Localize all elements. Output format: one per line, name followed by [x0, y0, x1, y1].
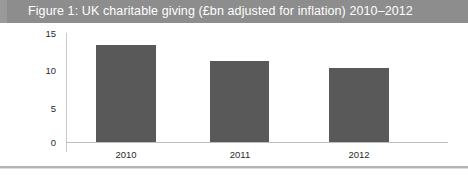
x-tick-label-2010: 2010 [86, 149, 166, 160]
chart-plot-area: 15 10 5 0 2010 2011 2012 [0, 23, 468, 175]
x-tick-label-2012: 2012 [319, 149, 399, 160]
x-axis-line [66, 142, 448, 143]
x-tick-label-2011: 2011 [200, 149, 280, 160]
figure-title: Figure 1: UK charitable giving (£bn adju… [28, 3, 413, 20]
bar-2011[interactable] [210, 61, 269, 142]
figure-container: Figure 1: UK charitable giving (£bn adju… [0, 0, 468, 175]
bars-layer [0, 23, 468, 142]
bar-2012[interactable] [329, 68, 389, 142]
bar-2010[interactable] [96, 45, 156, 142]
footer-divider-soft [0, 168, 468, 169]
figure-title-banner: Figure 1: UK charitable giving (£bn adju… [0, 0, 468, 23]
banner-left-accent [0, 0, 7, 23]
